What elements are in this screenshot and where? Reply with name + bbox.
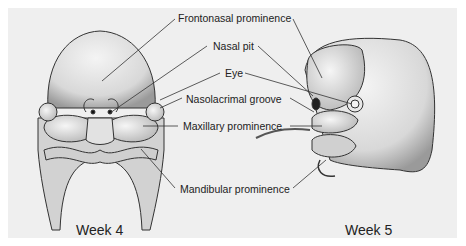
label-nasolacrimal-groove: Nasolacrimal groove (186, 93, 282, 105)
caption-week-5: Week 5 (345, 222, 392, 238)
week5-embryo (256, 38, 435, 176)
week4-embryo (38, 31, 164, 230)
label-eye: Eye (225, 67, 243, 79)
label-maxillary-prominence: Maxillary prominence (183, 120, 282, 132)
label-frontonasal-prominence: Frontonasal prominence (178, 12, 291, 24)
label-mandibular-prominence: Mandibular prominence (180, 183, 290, 195)
label-nasal-pit: Nasal pit (213, 40, 254, 52)
caption-week-4: Week 4 (76, 222, 123, 238)
